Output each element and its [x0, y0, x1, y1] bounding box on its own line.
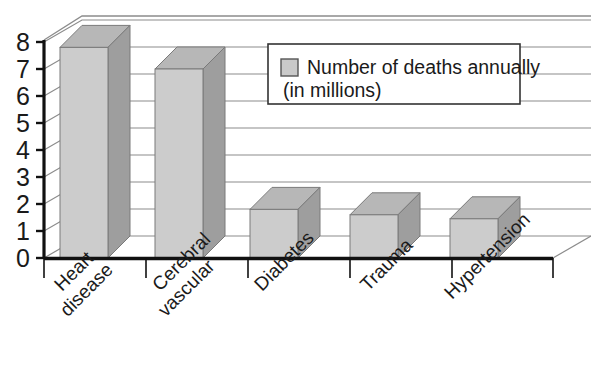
bar-heart-disease[interactable] [60, 25, 130, 258]
legend[interactable]: Number of deaths annually (in millions) [268, 44, 540, 104]
bar-cerebral-vascular[interactable] [155, 47, 225, 258]
y-tick-label: 2 [16, 190, 30, 218]
y-axis-tick-labels: 8 7 6 5 4 3 2 1 0 [16, 28, 30, 272]
y-tick-label: 3 [16, 163, 30, 191]
y-tick-label: 8 [16, 28, 30, 56]
y-tick-label: 0 [16, 244, 30, 272]
legend-label-line-1: Number of deaths annually [307, 56, 540, 78]
legend-swatch-icon [281, 59, 298, 76]
y-tick-label: 4 [16, 136, 30, 164]
y-tick-label: 1 [16, 217, 30, 245]
chart-container: 8 7 6 5 4 3 2 1 0 Heart disease [0, 0, 591, 382]
bar-chart-3d: 8 7 6 5 4 3 2 1 0 Heart disease [0, 0, 591, 382]
y-tick-label: 6 [16, 82, 30, 110]
y-tick-label: 7 [16, 55, 30, 83]
y-tick-label: 5 [16, 109, 30, 137]
legend-label-line-2: (in millions) [283, 79, 382, 101]
